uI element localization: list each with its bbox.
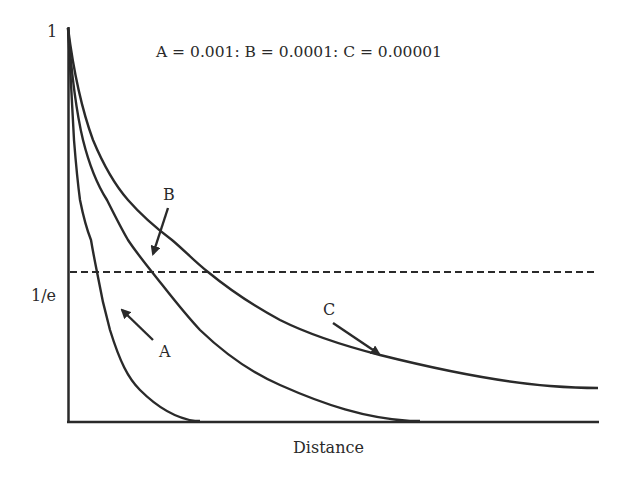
chart-title: A = 0.001: B = 0.0001: C = 0.00001 (156, 43, 442, 61)
arrow-a (122, 310, 153, 340)
arrow-b (153, 208, 168, 254)
curve-label-b: B (163, 185, 175, 204)
decay-chart: A = 0.001: B = 0.0001: C = 0.00001 1 1/e… (0, 0, 627, 479)
curve-label-a: A (159, 342, 171, 361)
x-axis-label: Distance (293, 438, 364, 457)
curve-a (68, 28, 200, 421)
y-tick-1: 1 (47, 22, 57, 41)
curve-label-c: C (323, 300, 335, 319)
chart-svg (0, 0, 627, 479)
y-tick-1-over-e: 1/e (31, 286, 56, 305)
